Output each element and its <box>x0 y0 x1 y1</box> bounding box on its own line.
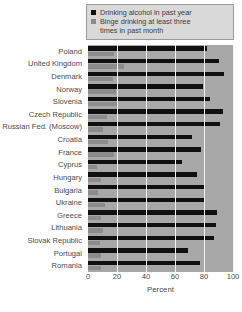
bar-row <box>88 95 233 108</box>
legend-label-binge-drinking-continued: times in past month <box>100 26 229 35</box>
y-axis-label: Ukraine <box>0 196 85 209</box>
y-axis-label: Lithuania <box>0 222 85 235</box>
bar-binge-drinking <box>88 64 124 68</box>
x-axis-title: Percent <box>88 285 233 294</box>
y-axis-label: Hungary <box>0 171 85 184</box>
bar-drinking-alcohol <box>88 160 182 164</box>
y-axis-label: Czech Republic <box>0 108 85 121</box>
gridline-60 <box>175 45 176 272</box>
bar-drinking-alcohol <box>88 46 207 50</box>
y-axis-label: Poland <box>0 45 85 58</box>
bar-binge-drinking <box>88 77 113 81</box>
bar-row <box>88 133 233 146</box>
x-tick-label: 0 <box>86 272 90 281</box>
y-axis-label: United Kingdom <box>0 58 85 71</box>
bar-chart: Drinking alcohol in past year Binge drin… <box>0 0 242 312</box>
bar-row <box>88 259 233 272</box>
bar-rows <box>88 45 233 272</box>
y-axis-label: Denmark <box>0 70 85 83</box>
x-tick-label: 20 <box>113 272 121 281</box>
bar-binge-drinking <box>88 178 101 182</box>
bar-binge-drinking <box>88 203 105 207</box>
y-axis-label: Portugal <box>0 247 85 260</box>
bar-binge-drinking <box>88 165 97 169</box>
gray-square-icon <box>91 19 96 24</box>
bar-row <box>88 70 233 83</box>
gridline-20 <box>117 45 118 272</box>
bar-drinking-alcohol <box>88 97 210 101</box>
bar-row <box>88 45 233 58</box>
chart-legend: Drinking alcohol in past year Binge drin… <box>86 4 234 40</box>
y-axis-label: Russian Fed. (Moscow) <box>0 121 85 134</box>
bar-binge-drinking <box>88 228 103 232</box>
y-axis-label: France <box>0 146 85 159</box>
x-tick-label: 100 <box>227 272 240 281</box>
bar-row <box>88 222 233 235</box>
x-tick-label: 80 <box>200 272 208 281</box>
bar-drinking-alcohol <box>88 261 200 265</box>
bar-row <box>88 83 233 96</box>
gridline-80 <box>204 45 205 272</box>
bar-drinking-alcohol <box>88 248 188 252</box>
bar-row <box>88 234 233 247</box>
y-axis-label: Slovak Republic <box>0 234 85 247</box>
y-axis-label: Romania <box>0 259 85 272</box>
bar-row <box>88 158 233 171</box>
bar-binge-drinking <box>88 115 107 119</box>
bar-drinking-alcohol <box>88 223 216 227</box>
x-tick-label: 60 <box>171 272 179 281</box>
bar-row <box>88 108 233 121</box>
bar-row <box>88 58 233 71</box>
x-tick-label: 40 <box>142 272 150 281</box>
bar-binge-drinking <box>88 190 98 194</box>
bar-binge-drinking <box>88 253 101 257</box>
bar-binge-drinking <box>88 52 114 56</box>
legend-entry-drinking-alcohol: Drinking alcohol in past year <box>91 8 229 17</box>
y-axis-label: Bulgaria <box>0 184 85 197</box>
y-axis-label: Slovenia <box>0 95 85 108</box>
gridline-100 <box>233 45 234 272</box>
bar-binge-drinking <box>88 241 100 245</box>
bar-binge-drinking <box>88 127 103 131</box>
y-axis-label: Croatia <box>0 133 85 146</box>
bar-row <box>88 146 233 159</box>
dark-square-icon <box>91 10 96 15</box>
bar-binge-drinking <box>88 216 101 220</box>
plot-area <box>88 45 233 272</box>
bar-drinking-alcohol <box>88 236 214 240</box>
bar-row <box>88 171 233 184</box>
bar-drinking-alcohol <box>88 210 217 214</box>
bar-binge-drinking <box>88 140 108 144</box>
bar-row <box>88 121 233 134</box>
gridline-40 <box>146 45 147 272</box>
y-axis-label: Norway <box>0 83 85 96</box>
x-axis-ticks: 020406080100 <box>88 272 233 284</box>
bar-drinking-alcohol <box>88 122 220 126</box>
y-axis-labels: PolandUnited KingdomDenmarkNorwaySloveni… <box>0 45 85 272</box>
bar-row <box>88 196 233 209</box>
y-axis-label: Greece <box>0 209 85 222</box>
bar-row <box>88 209 233 222</box>
bar-row <box>88 184 233 197</box>
legend-label-binge-drinking: Binge drinking at least three <box>100 17 190 26</box>
legend-entry-binge-drinking: Binge drinking at least three <box>91 17 229 26</box>
bar-drinking-alcohol <box>88 59 219 63</box>
bar-binge-drinking <box>88 152 114 156</box>
bar-drinking-alcohol <box>88 135 192 139</box>
legend-label-drinking-alcohol: Drinking alcohol in past year <box>100 8 192 17</box>
bar-drinking-alcohol <box>88 172 197 176</box>
bar-binge-drinking <box>88 266 101 270</box>
y-axis-label: Cyprus <box>0 158 85 171</box>
bar-binge-drinking <box>88 102 117 106</box>
bar-binge-drinking <box>88 89 116 93</box>
bar-row <box>88 247 233 260</box>
